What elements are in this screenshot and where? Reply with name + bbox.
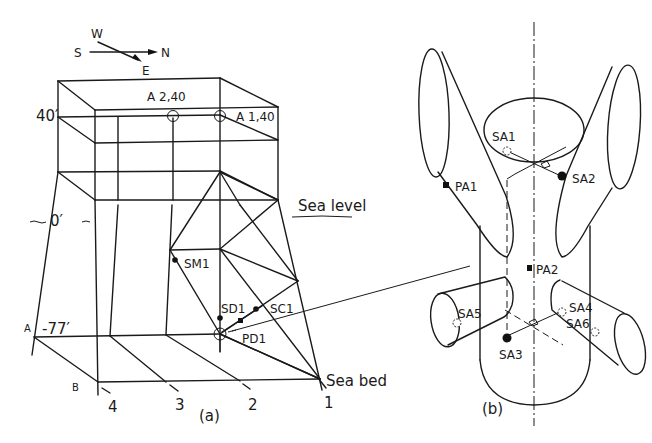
elevation-40-label: 40′ [36, 107, 59, 125]
sensor-dot-icon [558, 172, 567, 181]
svg-text:SA1: SA1 [492, 130, 516, 144]
sensor-pa1: PA1 [443, 180, 477, 194]
leg-3-label: 3 [175, 396, 185, 414]
jacket-structure [32, 78, 470, 395]
compass-north-label: N [161, 46, 170, 60]
sensor-hollow-icon [558, 308, 566, 316]
svg-text:SA4: SA4 [569, 301, 593, 315]
svg-text:SC1: SC1 [270, 302, 294, 316]
sensor-square-icon [527, 265, 532, 271]
sensor-sd1: SD1 [217, 302, 245, 321]
sensor-dot-icon [172, 257, 178, 263]
sensor-sa4: SA4 [558, 301, 593, 316]
row-b-label: B [72, 382, 79, 393]
sensor-sa3: SA3 [499, 334, 523, 363]
svg-text:A 2,40: A 2,40 [147, 90, 186, 104]
sensor-pa2: PA2 [527, 263, 558, 277]
sea-level-label: Sea level [298, 197, 366, 215]
leg-2-label: 2 [248, 396, 258, 414]
svg-text:SA3: SA3 [499, 348, 523, 362]
compass-south-label: S [74, 46, 82, 60]
elevation-0-label: 0′ [50, 212, 64, 230]
sensor-dot-icon [217, 315, 223, 321]
offshore-platform-diagram: S N W E [0, 0, 652, 443]
node-detail [417, 22, 651, 426]
svg-text:PD1: PD1 [242, 332, 266, 346]
sea-bed-label: Sea bed [326, 372, 387, 390]
sensor-hollow-icon [591, 328, 599, 336]
row-a-label: A [24, 323, 31, 334]
svg-text:PA2: PA2 [536, 263, 558, 277]
compass: S N W E [74, 27, 170, 78]
svg-text:PA1: PA1 [455, 180, 477, 194]
svg-text:SA6: SA6 [566, 317, 590, 331]
svg-text:SA2: SA2 [572, 172, 596, 186]
sensor-a2-40: A 2,40 [147, 90, 186, 122]
svg-text:SM1: SM1 [184, 257, 210, 271]
leg-1-label: 1 [324, 394, 334, 412]
compass-west-label: W [91, 27, 103, 41]
sensor-dot-icon [503, 334, 512, 343]
sensor-sa5: SA5 [453, 307, 482, 327]
sensor-sa6: SA6 [566, 317, 599, 336]
svg-text:SA5: SA5 [458, 307, 482, 321]
leg-4-label: 4 [108, 398, 118, 416]
sensor-hollow-icon [503, 147, 511, 155]
panel-b-caption: (b) [482, 400, 503, 418]
sensor-square-icon [443, 182, 449, 188]
compass-east-label: E [142, 64, 150, 78]
elevation-minus77-label: -77′ [42, 320, 70, 338]
svg-text:SD1: SD1 [221, 302, 246, 316]
svg-text:A 1,40: A 1,40 [236, 110, 275, 124]
panel-a-caption: (a) [199, 407, 220, 425]
